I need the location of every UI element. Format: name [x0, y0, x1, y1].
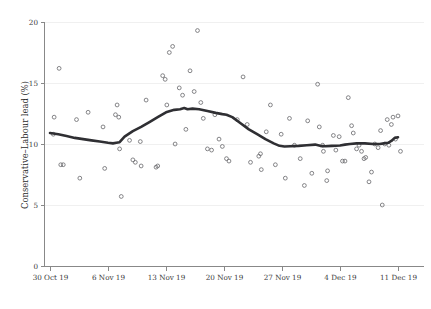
y-tick-label: 15: [29, 79, 39, 88]
chart-background: [0, 0, 431, 309]
poll-lead-chart: 30 Oct 196 Nov 1913 Nov 1920 Nov 1927 No…: [0, 0, 431, 309]
x-tick-label: 27 Nov 19: [264, 273, 302, 282]
x-tick-label: 13 Nov 19: [148, 273, 186, 282]
x-tick-label: 6 Nov 19: [92, 273, 125, 282]
chart-page: 30 Oct 196 Nov 1913 Nov 1920 Nov 1927 No…: [0, 0, 431, 309]
y-tick-label: 20: [29, 18, 39, 27]
y-tick-label: 5: [33, 201, 38, 210]
x-tick-label: 20 Nov 19: [206, 273, 244, 282]
y-axis-title: Conservative–Labour lead (%): [20, 81, 30, 209]
y-axis-title-label: Conservative–Labour lead (%): [20, 81, 30, 209]
y-tick-label: 10: [29, 140, 39, 149]
x-tick-label: 30 Oct 19: [33, 273, 69, 282]
y-tick-label: 0: [33, 262, 38, 271]
x-tick-label: 4 Dec 19: [324, 273, 357, 282]
x-tick-label: 11 Dec 19: [380, 273, 417, 282]
